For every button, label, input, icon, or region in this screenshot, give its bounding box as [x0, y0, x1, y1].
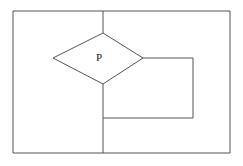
rhombus-label-p: P [96, 51, 102, 63]
inner-rectangle [103, 58, 193, 118]
diagram-canvas: P [0, 0, 243, 166]
line-diagram: P [0, 0, 243, 166]
outer-rectangle [13, 11, 230, 153]
